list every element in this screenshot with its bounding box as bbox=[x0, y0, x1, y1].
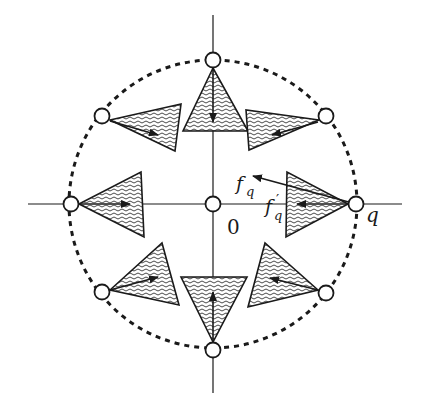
node-top-circle-icon bbox=[206, 53, 221, 68]
fq-prime-label-mark: ′ bbox=[276, 192, 279, 208]
node-right-q-circle-icon bbox=[349, 197, 364, 212]
diagram-svg: 0 q f q f ′ q bbox=[0, 0, 425, 420]
node-bottom-circle-icon bbox=[206, 343, 221, 358]
fq-label-f: f bbox=[234, 172, 246, 194]
wedge-top-shape bbox=[183, 68, 248, 131]
fq-label-sub: q bbox=[246, 184, 254, 199]
wedge-upper-right bbox=[246, 110, 319, 150]
q-label: q bbox=[366, 203, 379, 227]
node-lower-left-circle-icon bbox=[95, 285, 110, 300]
node-left-circle-icon bbox=[64, 197, 79, 212]
wedge-lower-right bbox=[248, 243, 318, 307]
wedge-upper-left bbox=[110, 104, 181, 151]
wedge-lower-left bbox=[110, 243, 179, 305]
wedge-upper-right-shape bbox=[246, 110, 319, 150]
node-lower-right-circle-icon bbox=[319, 286, 334, 301]
node-upper-left-circle-icon bbox=[95, 109, 110, 124]
fq-label: f q bbox=[234, 172, 254, 199]
wedge-upper-left-shape bbox=[110, 104, 181, 151]
node-upper-right-circle-icon bbox=[319, 109, 334, 124]
node-origin-circle-icon bbox=[206, 197, 221, 212]
wedge-top bbox=[183, 68, 248, 131]
fq-prime-label: f ′ q bbox=[263, 192, 282, 223]
wedge-bottom bbox=[181, 277, 247, 342]
fq-prime-label-sub: q bbox=[274, 208, 282, 223]
wedge-lower-left-shape bbox=[110, 243, 179, 305]
wedge-lower-right-shape bbox=[248, 243, 318, 307]
wedge-right bbox=[286, 172, 348, 237]
origin-label: 0 bbox=[227, 215, 240, 239]
wedge-bottom-shape bbox=[181, 277, 247, 342]
wedge-left bbox=[79, 172, 144, 237]
diagram-canvas: 0 q f q f ′ q bbox=[0, 0, 425, 420]
